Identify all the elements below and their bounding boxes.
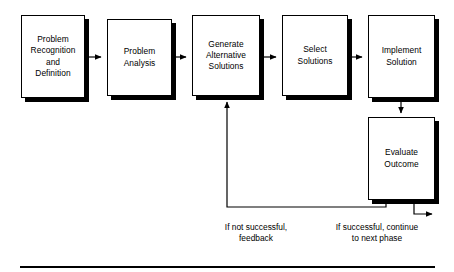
node-implement-solution[interactable]: Implement Solution xyxy=(368,15,435,98)
node-generate-alternative-solutions[interactable]: Generate Alternative Solutions xyxy=(192,15,260,96)
node-label: Generate Alternative Solutions xyxy=(206,39,246,73)
node-label: Evaluate Outcome xyxy=(384,147,418,169)
edge-label-successful-continue: If successful, continue to next phase xyxy=(312,222,442,245)
connector-feedback-loop xyxy=(227,102,386,207)
node-label: Select Solutions xyxy=(298,44,333,66)
node-select-solutions[interactable]: Select Solutions xyxy=(282,15,348,96)
bottom-divider xyxy=(20,266,435,268)
node-problem-recognition-and-definition[interactable]: Problem Recognition and Definition xyxy=(21,15,85,98)
node-evaluate-outcome[interactable]: Evaluate Outcome xyxy=(368,117,435,200)
node-problem-analysis[interactable]: Problem Analysis xyxy=(107,19,172,96)
node-label: Problem Analysis xyxy=(124,46,156,68)
node-label: Implement Solution xyxy=(382,45,422,67)
flowchart-diagram: Problem Recognition and Definition Probl… xyxy=(0,0,454,272)
edge-label-not-successful-feedback: If not successful, feedback xyxy=(193,222,319,245)
node-label: Problem Recognition and Definition xyxy=(31,34,76,79)
